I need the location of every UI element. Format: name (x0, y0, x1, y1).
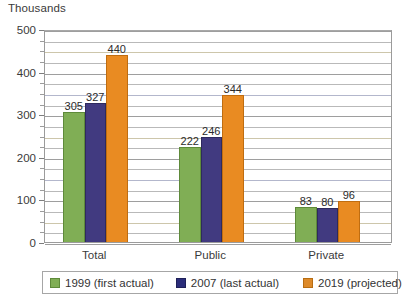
bar-value-label: 440 (108, 43, 126, 55)
bar-value-label: 246 (202, 125, 220, 137)
bar-value-label: 305 (65, 100, 83, 112)
bar (179, 147, 201, 242)
y-tick-label: 100 (2, 194, 36, 206)
legend-swatch-icon-1999 (50, 278, 60, 288)
legend-label-2019: 2019 (projected) (318, 277, 402, 289)
gridline-major (45, 74, 391, 75)
bar (295, 207, 317, 242)
y-tick-minor (40, 105, 44, 106)
y-tick-label: 300 (2, 109, 36, 121)
legend-item-1999: 1999 (first actual) (50, 277, 154, 289)
bar-value-label: 96 (343, 189, 355, 201)
bar-value-label: 80 (321, 196, 333, 208)
bar (201, 137, 223, 242)
y-tick-label: 200 (2, 152, 36, 164)
bar (85, 103, 107, 242)
y-tick-minor (40, 179, 44, 180)
bar (106, 55, 128, 242)
bar (63, 112, 85, 242)
bar-value-label: 327 (86, 91, 104, 103)
gridline-minor (45, 63, 391, 64)
gridline-major (45, 244, 391, 245)
y-tick-minor (40, 147, 44, 148)
bar (338, 201, 360, 242)
bar-value-label: 344 (224, 83, 242, 95)
y-tick-minor (40, 41, 44, 42)
y-tick-minor (40, 94, 44, 95)
y-tick-major (39, 158, 44, 159)
y-tick-minor (40, 83, 44, 84)
y-tick-label: 400 (2, 67, 36, 79)
y-tick-major (39, 30, 44, 31)
bar-value-label: 222 (181, 135, 199, 147)
y-tick-minor (40, 190, 44, 191)
plot-area: 305327440222246344838096 (44, 30, 392, 243)
y-tick-minor (40, 51, 44, 52)
bar (222, 95, 244, 242)
y-tick-major (39, 200, 44, 201)
x-axis-group-label: Public (195, 249, 226, 261)
y-tick-minor (40, 62, 44, 63)
bar-chart: Thousands 305327440222246344838096 01002… (0, 0, 404, 302)
legend-swatch-icon-2019 (303, 278, 313, 288)
gridline-minor (45, 42, 391, 43)
y-tick-minor (40, 232, 44, 233)
y-tick-minor (40, 222, 44, 223)
y-axis-unit-caption: Thousands (8, 2, 66, 14)
x-axis-group-label: Total (82, 249, 106, 261)
legend-item-2019: 2019 (projected) (303, 277, 402, 289)
legend-item-2007: 2007 (last actual) (176, 277, 279, 289)
y-tick-label: 0 (2, 237, 36, 249)
bar-value-label: 83 (300, 195, 312, 207)
chart-legend: 1999 (first actual) 2007 (last actual) 2… (42, 271, 398, 294)
y-tick-label: 500 (2, 24, 36, 36)
legend-swatch-icon-2007 (176, 278, 186, 288)
gridline-minor (45, 84, 391, 85)
gridline-minor (45, 52, 391, 53)
y-tick-major (39, 73, 44, 74)
y-tick-minor (40, 168, 44, 169)
y-tick-major (39, 115, 44, 116)
legend-label-2007: 2007 (last actual) (191, 277, 279, 289)
y-tick-minor (40, 126, 44, 127)
y-tick-minor (40, 137, 44, 138)
gridline-major (45, 31, 391, 32)
bar (317, 208, 339, 242)
y-tick-minor (40, 211, 44, 212)
legend-label-1999: 1999 (first actual) (65, 277, 154, 289)
y-tick-major (39, 243, 44, 244)
plot-inner: 305327440222246344838096 (45, 31, 391, 242)
x-axis-group-label: Private (308, 249, 344, 261)
